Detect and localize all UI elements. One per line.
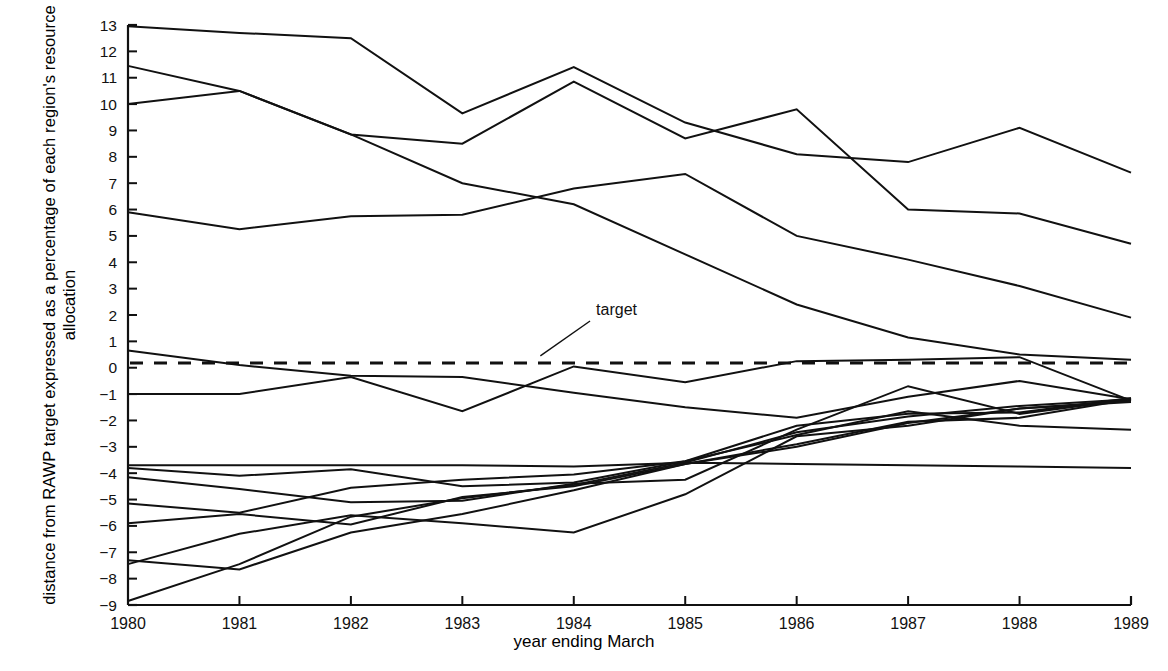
y-axis-tick-label: −3 [99, 438, 117, 455]
x-axis-tick-label: 1981 [222, 615, 258, 632]
y-axis-tick-label: −1 [99, 386, 117, 403]
y-axis-tick-label: 5 [108, 227, 117, 244]
annotation-group: target [540, 301, 637, 356]
x-axis-tick-label: 1985 [667, 615, 703, 632]
y-axis-tick-label: 9 [108, 122, 117, 139]
y-axis-tick-label: −9 [99, 597, 117, 614]
y-axis-tick-label: 4 [108, 254, 117, 271]
y-axis-tick-label: −6 [99, 517, 117, 534]
y-axis-tick-label: 2 [108, 307, 117, 324]
target-leader-line [540, 321, 590, 356]
chart-figure: 131211109876543210−1−2−3−4−5−6−7−8−9 198… [0, 0, 1168, 671]
series-line-region-a [128, 26, 1131, 172]
series-line-region-d [128, 174, 1131, 318]
y-axis-tick-label: 3 [108, 280, 117, 297]
x-axis-tick-label: 1987 [890, 615, 926, 632]
x-axis-tick-label: 1982 [333, 615, 369, 632]
series-line-region-e [128, 351, 1131, 418]
x-axis-tick-label: 1986 [779, 615, 815, 632]
y-axis-tick-label: 11 [101, 69, 117, 86]
x-axis-tick-label: 1984 [556, 615, 592, 632]
series-line-region-l [128, 402, 1131, 569]
y-axis-tick-label: 8 [108, 148, 117, 165]
y-axis-tick-label: −4 [99, 465, 117, 482]
y-axis-tick-label: 1 [108, 333, 117, 350]
y-axis-tick-label: −5 [99, 491, 117, 508]
series-line-region-f [128, 357, 1131, 411]
x-axis-tick-label: 1989 [1113, 615, 1149, 632]
series-line-region-n [128, 399, 1131, 601]
y-axis-tick-label: 13 [100, 17, 117, 34]
series-line-region-i [128, 386, 1131, 502]
series-line-region-j [128, 411, 1131, 512]
chart-plot-area: 131211109876543210−1−2−3−4−5−6−7−8−9 198… [0, 0, 1168, 671]
x-axis-title: year ending March [0, 632, 1168, 652]
y-axis-tick-label: 10 [100, 96, 118, 113]
y-axis-tick-label: 0 [108, 359, 117, 376]
y-axis-tick-label: 12 [100, 43, 117, 60]
series-line-region-k [128, 399, 1131, 524]
x-axis-tick-label: 1988 [1002, 615, 1038, 632]
y-axis-tick-label: 7 [108, 175, 117, 192]
y-axis-tick-label: 6 [108, 201, 117, 218]
y-axis-tick-label: −7 [99, 544, 117, 561]
target-annotation-label: target [596, 301, 637, 318]
x-axis: 1980198119821983198419851986198719881989 [110, 596, 1149, 632]
x-axis-tick-label: 1980 [110, 615, 146, 632]
series-line-region-b [128, 66, 1131, 244]
y-axis-tick-label: −8 [99, 570, 117, 587]
y-axis-tick-label: −2 [99, 412, 117, 429]
x-axis-tick-label: 1983 [445, 615, 481, 632]
